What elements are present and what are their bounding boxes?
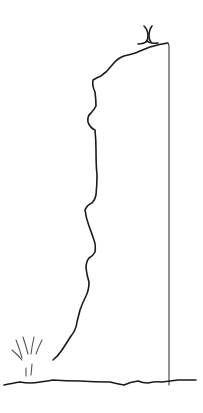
cliff-outline xyxy=(53,43,168,360)
ground-line xyxy=(4,380,196,385)
grass-tuft xyxy=(12,337,42,376)
sketch-canvas xyxy=(0,0,203,413)
figure-on-top xyxy=(138,26,158,44)
cliff-right-edge xyxy=(166,43,169,385)
cliff-drawing xyxy=(0,0,203,413)
